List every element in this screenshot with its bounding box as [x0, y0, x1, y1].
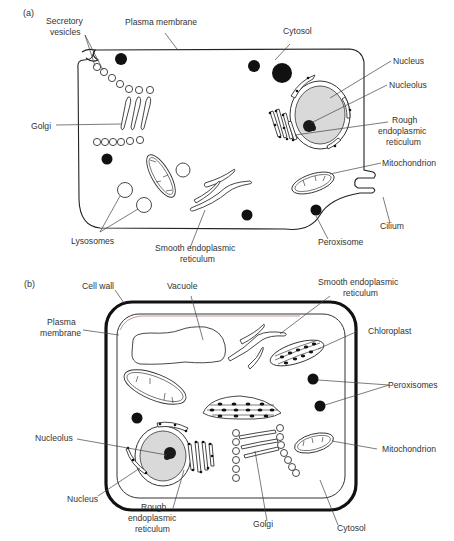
label-plasma-membrane-a: Plasma membrane: [125, 17, 197, 27]
animal-golgi: [93, 97, 150, 146]
chloroplast-right: [267, 335, 326, 371]
label-nucleolus-a: Nucleolus: [389, 80, 427, 90]
label-smooth-er-b-line2: reticulum: [343, 288, 378, 298]
plant-mitochondrion-right: [292, 429, 335, 457]
plant-peroxisome-3: [132, 413, 143, 424]
label-rough-er-a-line2: endoplasmic: [378, 126, 427, 136]
animal-peroxisome-small: [248, 60, 260, 72]
plant-peroxisome-1: [308, 374, 319, 385]
label-lysosomes: Lysosomes: [71, 236, 114, 246]
plant-nucleus: [135, 426, 191, 486]
animal-peroxisome-bottom: [242, 210, 253, 221]
animal-dark-granule: [272, 63, 292, 83]
vacuole: [132, 327, 226, 364]
label-plasma-membrane-b-line1: Plasma: [47, 317, 76, 327]
panel-a-label: (a): [23, 8, 34, 18]
label-secretory-vesicles-line2: vesicles: [50, 27, 81, 37]
label-rough-er-a-line1: Rough: [392, 115, 418, 125]
label-mitochondrion-a: Mitochondrion: [382, 158, 436, 168]
panel-a-animal-cell: (a): [23, 8, 436, 264]
label-plasma-membrane-b-line2: membrane: [40, 328, 81, 338]
label-golgi-a: Golgi: [31, 121, 51, 131]
lysosome-2: [137, 198, 152, 213]
label-mitochondrion-b: Mitochondrion: [382, 444, 436, 454]
label-nucleus-b: Nucleus: [67, 494, 98, 504]
label-peroxisomes: Peroxisomes: [388, 380, 438, 390]
label-rough-er-b-line1: Rough: [141, 502, 167, 512]
cell-diagram-figure: (a): [0, 0, 454, 541]
label-cilium: Cilium: [380, 221, 404, 231]
animal-smooth-er: [190, 169, 251, 211]
lysosome-1: [118, 183, 133, 198]
animal-peroxisome: [311, 205, 322, 216]
label-chloroplast: Chloroplast: [368, 326, 412, 336]
label-cytosol-a: Cytosol: [283, 26, 312, 36]
chloroplast-center: [203, 396, 281, 419]
plant-golgi: [233, 425, 300, 482]
label-cell-wall: Cell wall: [82, 281, 114, 291]
label-nucleus-a: Nucleus: [393, 56, 424, 66]
animal-peroxisome-left: [102, 154, 113, 165]
label-smooth-er-a-line1: Smooth endoplasmic: [155, 243, 236, 253]
label-vacuole: Vacuole: [167, 281, 198, 291]
label-smooth-er-a-line2: reticulum: [180, 254, 215, 264]
vesicle: [176, 163, 190, 177]
plant-peroxisome-2: [315, 401, 326, 412]
animal-mitochondrion-left: [141, 151, 181, 202]
animal-peroxisome-top: [115, 53, 127, 65]
label-peroxisome-a: Peroxisome: [318, 237, 364, 247]
label-cytosol-b: Cytosol: [337, 523, 366, 533]
label-golgi-b: Golgi: [253, 519, 273, 529]
label-rough-er-b-line3: reticulum: [135, 524, 170, 534]
panel-b-label: (b): [24, 279, 35, 289]
label-rough-er-b-line2: endoplasmic: [128, 513, 177, 523]
plant-mitochondrion-left: [120, 363, 191, 412]
secretory-vesicles: [93, 63, 153, 93]
animal-mitochondrion-right: [289, 168, 336, 199]
panel-b-plant-cell: (b): [24, 277, 438, 534]
label-secretory-vesicles-line1: Secretory: [46, 16, 83, 26]
label-rough-er-a-line3: reticulum: [386, 137, 421, 147]
label-smooth-er-b-line1: Smooth endoplasmic: [318, 277, 399, 287]
label-nucleolus-b: Nucleolus: [35, 433, 73, 443]
